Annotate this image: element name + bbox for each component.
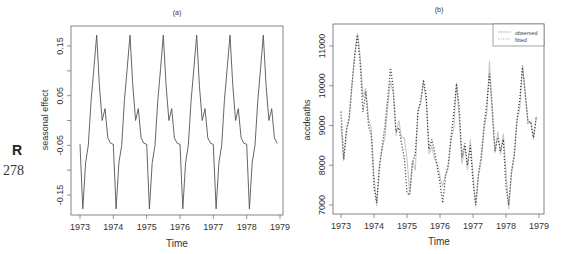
chart-b-x-axis: 1973197419751976197719781979 bbox=[331, 214, 549, 231]
chart-b-series bbox=[341, 33, 536, 209]
chart-b-ylabel: accdeaths bbox=[302, 99, 312, 141]
series-line-observed bbox=[341, 33, 536, 209]
legend-fitted-label: fitted bbox=[515, 37, 527, 43]
y-tick-label: 9000 bbox=[317, 115, 327, 135]
chart-b-title: (b) bbox=[435, 6, 444, 14]
y-tick-label: 7000 bbox=[317, 195, 327, 215]
y-tick-label: 11000 bbox=[317, 34, 327, 58]
y-tick-label: 8000 bbox=[317, 155, 327, 175]
x-tick-label: 1976 bbox=[430, 221, 450, 231]
x-tick-label: 1974 bbox=[364, 221, 384, 231]
chart-b-y-axis: 7000800090001000011000 bbox=[317, 34, 333, 215]
y-tick-label: 10000 bbox=[317, 73, 327, 98]
x-tick-label: 1973 bbox=[331, 221, 351, 231]
figure: R 278 (a) 1973197419751976197719781979 -… bbox=[0, 0, 574, 254]
x-tick-label: 1975 bbox=[397, 221, 417, 231]
chart-accdeaths: (b) 1973197419751976197719781979 7000800… bbox=[0, 0, 574, 254]
chart-b-plot-box bbox=[333, 24, 544, 214]
x-tick-label: 1978 bbox=[496, 221, 516, 231]
chart-b-legend: observed fitted bbox=[493, 24, 544, 46]
x-tick-label: 1979 bbox=[529, 221, 549, 231]
chart-b-xlabel: Time bbox=[428, 236, 450, 247]
legend-observed-label: observed bbox=[515, 30, 538, 36]
x-tick-label: 1977 bbox=[463, 221, 483, 231]
